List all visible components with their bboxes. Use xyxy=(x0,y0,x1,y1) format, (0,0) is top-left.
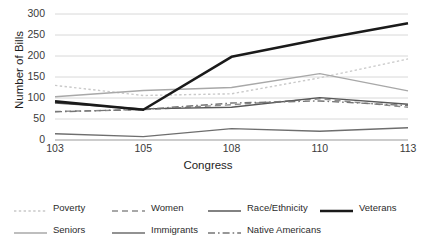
legend-item-immigrants[interactable]: Immigrants xyxy=(112,222,198,236)
legend-item-veterans[interactable]: Veterans xyxy=(320,200,397,214)
x-tick-label: 108 xyxy=(209,142,255,154)
legend-swatch-icon xyxy=(112,202,145,212)
series-lines xyxy=(55,23,408,136)
legend-swatch-icon xyxy=(208,224,241,234)
legend-swatch-icon xyxy=(208,202,241,212)
legend-swatch-icon xyxy=(320,202,353,212)
series-line-veterans xyxy=(55,23,408,110)
legend-label: Race/Ethnicity xyxy=(247,202,308,213)
legend-swatch-icon xyxy=(14,224,47,234)
legend-label: Immigrants xyxy=(151,224,198,235)
legend-item-race-ethnicity[interactable]: Race/Ethnicity xyxy=(208,200,308,214)
x-tick-label: 103 xyxy=(32,142,78,154)
series-line-immigrants xyxy=(55,128,408,137)
x-tick-label: 105 xyxy=(120,142,166,154)
plot-area: Number of Bills 300250200150100500 10310… xyxy=(0,0,416,178)
legend-item-poverty[interactable]: Poverty xyxy=(14,200,85,214)
legend-label: Native Americans xyxy=(247,224,321,235)
legend-item-native-americans[interactable]: Native Americans xyxy=(208,222,321,236)
legend-item-seniors[interactable]: Seniors xyxy=(14,222,85,236)
x-axis-title: Congress xyxy=(0,159,416,171)
legend-label: Veterans xyxy=(359,202,397,213)
legend-item-women[interactable]: Women xyxy=(112,200,184,214)
legend-swatch-icon xyxy=(14,202,47,212)
legend-label: Poverty xyxy=(53,202,85,213)
x-tick-label: 113 xyxy=(385,142,421,154)
x-tick-label: 110 xyxy=(297,142,343,154)
legend-label: Women xyxy=(151,202,184,213)
chart-legend: PovertyWomenRace/EthnicityVeteransSenior… xyxy=(0,186,416,246)
legend-swatch-icon xyxy=(112,224,145,234)
legend-label: Seniors xyxy=(53,224,85,235)
